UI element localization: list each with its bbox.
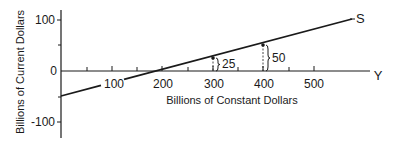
annotation-25: 25 [222, 57, 236, 71]
x-tick-label-300: 300 [204, 77, 224, 91]
x-axis-end-label: Y [374, 68, 383, 83]
y-axis-title: Billions of Current Dollars [14, 9, 26, 134]
x-tick-label-200: 200 [153, 77, 173, 91]
annotation-50: 50 [272, 51, 286, 65]
y-tick-label-100: 100 [35, 13, 55, 27]
x-tick-label-100: 100 [104, 77, 124, 91]
y-tick-label-m100: -100 [31, 115, 55, 129]
brace-400 [266, 45, 270, 71]
series-line-s-segment-1 [61, 85, 101, 96]
x-axis-title: Billions of Constant Dollars [166, 94, 298, 106]
brace-300 [216, 58, 220, 71]
x-tick-label-400: 400 [254, 77, 274, 91]
series-label-s: S [356, 11, 365, 26]
chart-canvas: 100 0 -100 Billions of Current Dollars 1… [0, 0, 398, 145]
y-tick-label-0: 0 [50, 64, 57, 78]
x-tick-label-500: 500 [304, 77, 324, 91]
